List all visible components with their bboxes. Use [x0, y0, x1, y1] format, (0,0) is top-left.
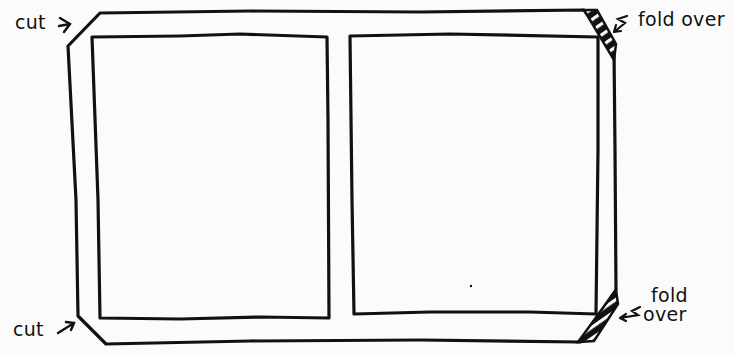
right-panel: [350, 34, 598, 314]
cover-template-diagram: [0, 0, 734, 356]
arrow-cut-top: [59, 18, 70, 32]
stray-dot: [470, 285, 472, 287]
left-panel: [92, 34, 329, 319]
label-cut-top: cut: [15, 13, 46, 32]
fold-flap-bottom: [578, 290, 618, 342]
label-fold-bottom-line2: over: [643, 305, 687, 324]
arrow-cut-bottom: [58, 322, 74, 333]
label-cut-bottom: cut: [13, 320, 44, 339]
outer-sheet-outline: [68, 10, 616, 344]
arrow-fold-bottom: [620, 307, 640, 321]
fold-flap-top: [584, 10, 616, 60]
arrow-fold-top: [614, 16, 627, 32]
label-fold-over-top: fold over: [638, 10, 725, 29]
